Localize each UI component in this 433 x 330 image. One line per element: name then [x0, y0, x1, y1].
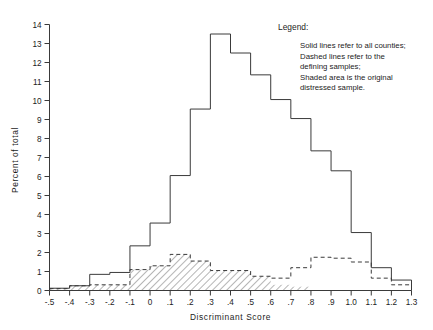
legend-line: distressed sample.	[300, 83, 365, 92]
y-tick-label: 1	[37, 268, 42, 277]
x-axis: -.5-.4-.3-.2-.10.1.2.3.4.5.6.7.8.91.01.1…	[45, 291, 418, 307]
shaded-distressed-sample-series	[50, 254, 311, 290]
x-tick-label: .5	[247, 298, 254, 307]
y-tick-label: 13	[32, 40, 42, 49]
y-axis: 01234567891011121314	[32, 21, 49, 296]
x-tick-label: .8	[308, 298, 315, 307]
hatched-bar	[130, 270, 150, 291]
x-tick-label: -.1	[125, 298, 135, 307]
y-tick-label: 12	[32, 59, 42, 68]
x-tick-label: 1.0	[345, 298, 357, 307]
y-tick-label: 10	[32, 97, 42, 106]
hatched-bar	[90, 285, 110, 291]
hatched-bar	[150, 266, 170, 291]
chart-canvas: 01234567891011121314 -.5-.4-.3-.2-.10.1.…	[0, 0, 433, 330]
x-tick-label: -.2	[105, 298, 115, 307]
hatched-bar	[231, 271, 251, 291]
legend-line: Solid lines refer to all counties;	[300, 41, 406, 50]
legend-line: Shaded area is the original	[300, 73, 393, 82]
y-tick-label: 3	[37, 230, 42, 239]
y-tick-label: 2	[37, 249, 42, 258]
y-tick-label: 11	[33, 78, 42, 87]
x-tick-label: 0	[148, 298, 153, 307]
x-tick-label: .6	[267, 298, 274, 307]
legend-line: defining samples;	[300, 62, 361, 71]
hatched-bar	[251, 276, 271, 290]
discriminant-score-histogram-figure: 01234567891011121314 -.5-.4-.3-.2-.10.1.…	[0, 0, 433, 330]
x-tick-label: -.3	[85, 298, 95, 307]
x-tick-label: .2	[187, 298, 194, 307]
hatched-bar	[70, 286, 90, 291]
legend-line: Dashed lines refer to the	[300, 52, 385, 61]
hatched-bar	[170, 254, 190, 290]
x-tick-label: .3	[207, 298, 214, 307]
y-tick-label: 4	[37, 211, 42, 220]
y-tick-label: 6	[37, 173, 42, 182]
y-tick-label: 14	[32, 21, 42, 30]
y-tick-label: 0	[37, 287, 42, 296]
x-tick-label: .9	[328, 298, 335, 307]
x-tick-label: 1.1	[366, 298, 378, 307]
y-axis-title: Percent of total	[10, 127, 20, 193]
hatched-bar	[110, 285, 130, 291]
x-tick-label: -.4	[65, 298, 75, 307]
hatched-bar	[291, 287, 311, 291]
y-tick-label: 8	[37, 135, 42, 144]
x-tick-label: -.5	[45, 298, 55, 307]
x-tick-label: .7	[287, 298, 294, 307]
x-axis-title: Discriminant Score	[190, 312, 271, 322]
hatched-bar	[271, 285, 291, 291]
legend: Legend: Solid lines refer to all countie…	[278, 22, 406, 92]
x-tick-label: 1.2	[386, 298, 398, 307]
y-tick-label: 7	[37, 154, 42, 163]
x-tick-label: 1.3	[406, 298, 418, 307]
hatched-bar	[210, 271, 230, 291]
legend-title: Legend:	[278, 22, 308, 32]
y-tick-label: 9	[37, 116, 42, 125]
x-tick-label: .1	[167, 298, 174, 307]
clipped-header-text	[8, 0, 408, 6]
hatched-bar	[190, 261, 210, 290]
x-tick-label: .4	[227, 298, 234, 307]
y-tick-label: 5	[37, 192, 42, 201]
